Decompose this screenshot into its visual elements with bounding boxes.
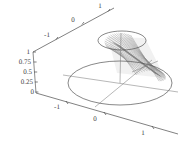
vertical-tick-label-0p75: 0.75 (19, 58, 32, 66)
vertical-tick-label-0p25: 0.25 (21, 78, 34, 86)
top-tick-label--1: -1 (44, 31, 50, 39)
plot-canvas: -1 0 1 1 0.75 0.5 0.25 0 -1 0 1 (0, 0, 193, 143)
plot-figure: -1 0 1 1 0.75 0.5 0.25 0 -1 0 1 (0, 0, 193, 143)
vertical-tick-label-1: 1 (27, 48, 31, 56)
surface-group (63, 31, 178, 107)
vertical-tick-label-0: 0 (31, 88, 35, 96)
top-tick-label-1: 1 (98, 2, 102, 10)
bottom-tick-label-0: 0 (93, 115, 97, 123)
top-tick-label-0: 0 (71, 16, 75, 24)
bottom-tick-label--1: -1 (54, 103, 60, 111)
bottom-tick-label-1: 1 (141, 129, 145, 137)
bottom-axis-line (36, 93, 178, 134)
bottom-tick-0 (104, 112, 106, 115)
vertical-tick-label-0p5: 0.5 (23, 68, 32, 76)
vertical-axis-line (33, 52, 36, 93)
